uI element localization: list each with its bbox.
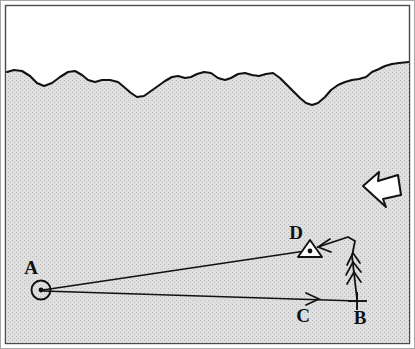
survey-diagram-svg: A D C B <box>0 0 415 349</box>
point-label-a: A <box>24 257 38 278</box>
point-label-c: C <box>296 305 310 326</box>
point-d-center-dot <box>308 249 313 254</box>
point-a-center-dot <box>39 288 44 293</box>
point-label-b: B <box>354 307 367 328</box>
figure-canvas: A D C B <box>0 0 415 349</box>
point-label-d: D <box>289 222 303 243</box>
figure-content: A D C B <box>7 62 409 344</box>
